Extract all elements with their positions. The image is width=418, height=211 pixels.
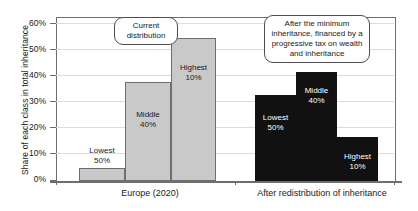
bar-label-line1: Middle [136, 110, 160, 119]
gridline-30 [56, 101, 394, 102]
bar-label-line2: 10% [185, 73, 201, 82]
bar-label-line2: 40% [140, 120, 156, 129]
bar-label-europe-highest: Highest 10% [171, 63, 216, 82]
callout-after-redistribution[interactable]: After the minimum inheritance, financed … [264, 15, 370, 63]
y-tick-label-40: 40% [4, 71, 46, 79]
bar-europe-highest-10[interactable] [171, 38, 216, 181]
bar-label-europe-middle: Middle 40% [125, 110, 171, 129]
bar-label-line2: 10% [349, 162, 365, 171]
bar-label-line2: 40% [308, 96, 324, 105]
y-tick-label-60: 60% [4, 19, 46, 27]
x-tick-mid [235, 181, 236, 185]
chart-figure: Share of each class in total inheritance… [0, 0, 418, 211]
bar-redistribution-lowest-50[interactable] [255, 95, 296, 181]
group-caption-redistribution: After redistribution of inheritance [232, 188, 412, 198]
gridline-40 [56, 75, 394, 76]
bar-label-line2: 50% [267, 123, 283, 132]
callout-current-distribution[interactable]: Current distribution [114, 17, 178, 45]
y-tick-label-0: 0% [4, 175, 46, 183]
bar-label-redistribution-middle: Middle 40% [296, 86, 337, 105]
x-tick-left [56, 181, 57, 185]
y-tick-label-30: 30% [4, 97, 46, 105]
bar-label-europe-lowest: Lowest 50% [79, 146, 125, 165]
bar-label-redistribution-lowest: Lowest 50% [255, 113, 296, 132]
bar-label-redistribution-highest: Highest 10% [337, 152, 378, 171]
bar-label-line2: 50% [94, 156, 110, 165]
bar-label-line1: Lowest [263, 113, 288, 122]
y-tick-label-20: 20% [4, 123, 46, 131]
y-tick-label-10: 10% [4, 149, 46, 157]
bar-europe-lowest-50[interactable] [79, 168, 125, 181]
x-tick-right [394, 181, 395, 185]
bar-label-line1: Highest [180, 63, 207, 72]
bar-label-line1: Highest [344, 152, 371, 161]
group-caption-europe: Europe (2020) [70, 188, 230, 198]
bar-label-line1: Middle [305, 86, 329, 95]
y-tick-label-50: 50% [4, 45, 46, 53]
gridline-20 [56, 127, 394, 128]
bar-label-line1: Lowest [89, 146, 114, 155]
x-axis-baseline [50, 181, 402, 183]
bar-europe-middle-40[interactable] [125, 82, 171, 181]
